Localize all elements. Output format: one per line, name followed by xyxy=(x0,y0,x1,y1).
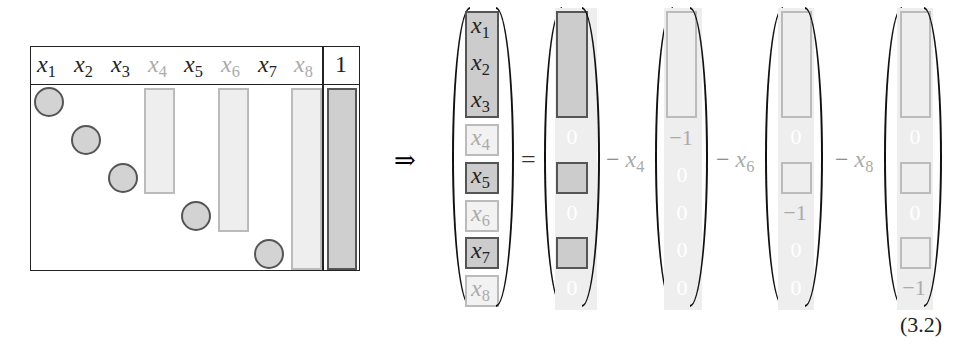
header-x7: x7 xyxy=(258,51,277,82)
pivot-7 xyxy=(254,239,284,269)
free-column-x8 xyxy=(291,88,322,270)
free-column-x6 xyxy=(218,88,249,232)
vec-x2: x2 xyxy=(471,49,490,80)
header-x3: x3 xyxy=(111,51,130,82)
table-header-row: x1 x2 x3 x4 x5 x6 x7 x8 1 xyxy=(31,47,359,85)
header-x4: x4 xyxy=(148,51,167,82)
right-paren xyxy=(805,7,823,307)
echelon-matrix-table: x1 x2 x3 x4 x5 x6 x7 x8 1 xyxy=(30,46,360,271)
pivot-5 xyxy=(181,201,211,231)
header-rhs: 1 xyxy=(335,51,347,78)
pivot-3 xyxy=(108,163,138,193)
rhs-column xyxy=(327,88,357,270)
minus-x8-term: − x8 xyxy=(835,146,873,177)
vec-x6: x6 xyxy=(471,200,490,231)
right-paren xyxy=(496,7,514,307)
vec-x5: x5 xyxy=(471,162,490,193)
pivot-2 xyxy=(71,125,101,155)
header-x2: x2 xyxy=(74,51,93,82)
header-x8: x8 xyxy=(294,51,313,82)
vec-x7: x7 xyxy=(471,237,490,268)
equals-sign: = xyxy=(521,145,536,175)
right-paren xyxy=(690,7,708,307)
right-paren xyxy=(582,7,600,307)
implies-arrow: ⇒ xyxy=(394,145,416,176)
vec-x3: x3 xyxy=(471,86,490,117)
header-x1: x1 xyxy=(37,51,56,82)
augmented-separator xyxy=(322,47,324,270)
equation-number: (3.2) xyxy=(900,312,942,338)
right-paren xyxy=(924,7,942,307)
minus-x4-term: − x4 xyxy=(606,146,644,177)
vec-x1: x1 xyxy=(471,12,490,43)
pivot-1 xyxy=(34,87,64,117)
minus-x6-term: − x6 xyxy=(716,146,754,177)
header-x5: x5 xyxy=(184,51,203,82)
vec-x4: x4 xyxy=(471,124,490,155)
free-column-x4 xyxy=(144,88,175,194)
header-x6: x6 xyxy=(221,51,240,82)
vec-x8: x8 xyxy=(471,275,490,306)
